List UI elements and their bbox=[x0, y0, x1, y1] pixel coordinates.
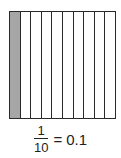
numerator: 1 bbox=[36, 124, 47, 138]
equals-sign: = bbox=[53, 131, 62, 148]
shaded-strip bbox=[10, 12, 21, 118]
strip bbox=[84, 12, 95, 118]
strip bbox=[42, 12, 53, 118]
decimal-value: 0.1 bbox=[66, 131, 87, 148]
fraction: 1 10 bbox=[34, 124, 48, 154]
fraction-caption: 1 10 = 0.1 bbox=[0, 124, 121, 154]
strip bbox=[21, 12, 32, 118]
strip bbox=[95, 12, 106, 118]
strip bbox=[74, 12, 85, 118]
strip bbox=[105, 12, 115, 118]
tenths-grid bbox=[9, 11, 116, 119]
denominator: 10 bbox=[34, 139, 48, 154]
strip bbox=[52, 12, 63, 118]
strip bbox=[63, 12, 74, 118]
strip bbox=[31, 12, 42, 118]
